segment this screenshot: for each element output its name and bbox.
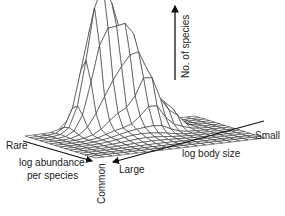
abundance-label-line1: log abundance (19, 157, 85, 169)
common-label: Common (96, 163, 108, 204)
abundance-label-line2: per species (27, 170, 78, 182)
large-label: Large (119, 164, 145, 176)
body-size-label: log body size (182, 148, 240, 160)
wireframe-mesh (25, 0, 265, 158)
small-label: Small (255, 130, 280, 142)
z-axis-label: No. of species (180, 15, 192, 78)
rare-label: Rare (6, 140, 28, 152)
surface-plot (0, 0, 285, 216)
